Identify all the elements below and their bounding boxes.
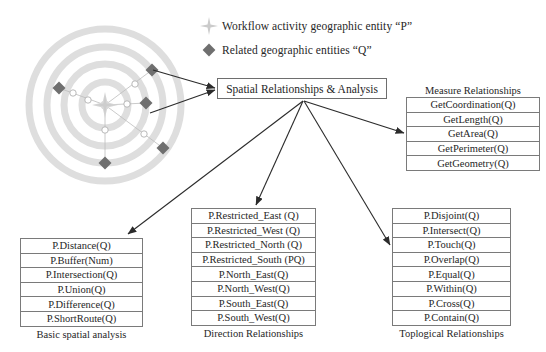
- group-direction-relationships: P.Restricted_East (Q) P.Restricted_West …: [191, 208, 316, 340]
- table-row[interactable]: P.South_East(Q): [192, 297, 315, 312]
- table-row[interactable]: P.North_West(Q): [192, 282, 315, 297]
- table-row[interactable]: P.Restricted_North (Q): [192, 238, 315, 253]
- table-row[interactable]: P.Distance(Q): [21, 239, 142, 254]
- table-row[interactable]: P.Difference(Q): [21, 297, 142, 312]
- table-row[interactable]: P.Overlap(Q): [393, 253, 510, 268]
- table-row[interactable]: P.Equal(Q): [393, 267, 510, 282]
- central-node-label: Spatial Relationships & Analysis: [226, 83, 378, 95]
- table-row[interactable]: P.Union(Q): [21, 283, 142, 298]
- table-row[interactable]: P.North_East(Q): [192, 267, 315, 282]
- table-row[interactable]: P.Intersect(Q): [393, 224, 510, 239]
- table-row[interactable]: P.Intersection(Q): [21, 268, 142, 283]
- diamond-icon: [196, 39, 222, 61]
- edge-rings-to-center-lower: [150, 90, 215, 113]
- legend-label-p: Workflow activity geographic entity “P”: [222, 20, 412, 32]
- star-four-point-icon: [196, 15, 222, 37]
- edge-center-to-measure: [304, 101, 404, 133]
- group-measure-relationships: Measure Relationships GetCoordination(Q)…: [406, 84, 540, 171]
- group-topological-relationships: P.Disjoint(Q) P.Intersect(Q) P.Touch(Q) …: [392, 208, 511, 340]
- table-row[interactable]: P.Contain(Q): [393, 311, 510, 326]
- group-title-basic: Basic spatial analysis: [20, 328, 143, 341]
- table-measure-relationships: GetCoordination(Q) GetLength(Q) GetArea(…: [406, 97, 540, 171]
- table-row[interactable]: P.Buffer(Num): [21, 254, 142, 269]
- group-title-measure: Measure Relationships: [406, 84, 540, 97]
- table-row[interactable]: GetLength(Q): [407, 113, 539, 128]
- table-row[interactable]: GetPerimeter(Q): [407, 142, 539, 157]
- group-basic-spatial-analysis: P.Distance(Q) P.Buffer(Num) P.Intersecti…: [20, 238, 143, 341]
- table-row[interactable]: GetCoordination(Q): [407, 98, 539, 113]
- group-title-topological: Toplogical Relationships: [392, 327, 511, 340]
- table-row[interactable]: P.Disjoint(Q): [393, 209, 510, 224]
- edge-rings-to-center-upper: [153, 70, 215, 88]
- table-row[interactable]: P.Restricted_South (PQ): [192, 253, 315, 268]
- table-row[interactable]: GetArea(Q): [407, 127, 539, 142]
- table-row[interactable]: P.ShortRoute(Q): [21, 312, 142, 327]
- table-row[interactable]: P.Touch(Q): [393, 238, 510, 253]
- table-row[interactable]: GetGeometry(Q): [407, 156, 539, 171]
- table-row[interactable]: P.Cross(Q): [393, 297, 510, 312]
- table-direction-relationships: P.Restricted_East (Q) P.Restricted_West …: [191, 208, 316, 326]
- edge-center-to-direction: [256, 101, 303, 205]
- diagram-canvas: Workflow activity geographic entity “P” …: [0, 0, 546, 352]
- legend-label-q: Related geographic entities “Q”: [222, 44, 372, 56]
- central-node-spatial-relationships[interactable]: Spatial Relationships & Analysis: [217, 78, 387, 99]
- legend-item-q: Related geographic entities “Q”: [196, 38, 526, 62]
- table-row[interactable]: P.Restricted_West (Q): [192, 224, 315, 239]
- table-row[interactable]: P.Within(Q): [393, 282, 510, 297]
- table-topological-relationships: P.Disjoint(Q) P.Intersect(Q) P.Touch(Q) …: [392, 208, 511, 326]
- table-basic-spatial-analysis: P.Distance(Q) P.Buffer(Num) P.Intersecti…: [20, 238, 143, 327]
- edge-center-to-topological: [304, 101, 390, 245]
- legend-item-p: Workflow activity geographic entity “P”: [196, 14, 526, 38]
- legend: Workflow activity geographic entity “P” …: [196, 14, 526, 62]
- group-title-direction: Direction Relationships: [191, 327, 316, 340]
- table-row[interactable]: P.South_West(Q): [192, 311, 315, 326]
- table-row[interactable]: P.Restricted_East (Q): [192, 209, 315, 224]
